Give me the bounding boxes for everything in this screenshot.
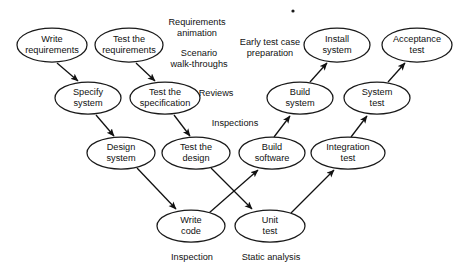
edge-write-requirements-to-specify-system (57, 63, 78, 81)
node-label-integration-test: Integration (326, 142, 369, 152)
process-diagram: WriterequirementsTest therequirementsIns… (0, 0, 466, 277)
edge-specify-system-to-design-system (96, 115, 114, 136)
node-label-build-system: Build (290, 87, 310, 97)
annotation-reviews: Reviews (199, 88, 234, 98)
annotation-label-static-analysis: Static analysis (242, 252, 301, 262)
annotation-label-inspections: Inspections (212, 118, 259, 128)
annotation-requirements-animation: Requirementsanimation (168, 17, 226, 39)
node-label-test-the-specification: Test the (149, 87, 181, 97)
node-unit-test[interactable]: Unittest (235, 210, 305, 242)
annotation-label-requirements-animation: Requirements (168, 17, 226, 27)
node-label-write-code: Write (180, 215, 201, 225)
node-label-write-requirements: requirements (25, 45, 79, 55)
node-test-the-design[interactable]: Test thedesign (162, 137, 230, 169)
artifact-specks-layer (291, 9, 294, 12)
annotation-inspections: Inspections (212, 118, 259, 128)
node-label-test-the-requirements: Test the (113, 34, 145, 44)
node-install-system[interactable]: Installsystem (304, 28, 370, 62)
annotation-scenario-walk-throughs: Scenariowalk-throughs (169, 48, 228, 70)
edge-test-design-to-unit-test (211, 168, 252, 209)
node-label-install-system: system (322, 45, 351, 55)
node-test-the-specification[interactable]: Test thespecification (130, 82, 200, 114)
annotation-static-analysis: Static analysis (242, 252, 301, 262)
node-label-design-system: Design (107, 142, 136, 152)
node-label-system-test: test (370, 98, 385, 108)
diagram-canvas: WriterequirementsTest therequirementsIns… (0, 0, 466, 277)
node-label-test-the-design: design (182, 153, 209, 163)
edge-test-specification-to-test-design (174, 115, 190, 136)
node-label-unit-test: test (263, 226, 278, 236)
annotation-label-requirements-animation: animation (177, 28, 217, 38)
edge-test-requirements-to-test-specification (136, 63, 155, 81)
edge-write-code-to-build-software (209, 170, 258, 213)
annotation-inspection: Inspection (171, 252, 213, 262)
edge-build-software-to-build-system (274, 116, 290, 137)
node-label-build-software: software (255, 153, 290, 163)
annotation-label-early-test-case-preparation: preparation (247, 48, 293, 58)
annotation-label-inspection: Inspection (171, 252, 213, 262)
edge-design-system-to-write-code (137, 168, 176, 209)
node-label-acceptance-test: test (410, 45, 425, 55)
node-build-software[interactable]: Buildsoftware (239, 137, 305, 169)
node-label-acceptance-test: Acceptance (393, 34, 441, 44)
node-design-system[interactable]: Designsystem (87, 137, 155, 169)
node-label-write-requirements: Write (41, 34, 62, 44)
edge-build-system-to-install-system (310, 63, 327, 82)
node-specify-system[interactable]: Specifysystem (55, 82, 121, 114)
annotation-label-scenario-walk-throughs: Scenario (181, 48, 217, 58)
node-label-write-code: code (181, 226, 201, 236)
node-label-test-the-specification: specification (140, 98, 191, 108)
node-integration-test[interactable]: Integrationtest (311, 137, 385, 169)
node-system-test[interactable]: Systemtest (344, 82, 410, 114)
edge-integration-test-to-system-test (351, 116, 367, 137)
annotation-label-scenario-walk-throughs: walk-throughs (169, 59, 228, 69)
annotation-early-test-case-preparation: Early test casepreparation (240, 37, 300, 59)
node-label-install-system: Install (325, 34, 349, 44)
artifact-scan-speck (291, 9, 294, 12)
node-acceptance-test[interactable]: Acceptancetest (382, 28, 452, 62)
node-label-design-system: system (106, 153, 135, 163)
annotation-label-early-test-case-preparation: Early test case (240, 37, 300, 47)
node-label-specify-system: Specify (73, 87, 104, 97)
node-label-system-test: System (362, 87, 393, 97)
node-label-test-the-requirements: requirements (102, 45, 156, 55)
edge-unit-test-to-integration-test (291, 170, 334, 213)
node-label-unit-test: Unit (262, 215, 279, 225)
node-write-code[interactable]: Writecode (157, 210, 225, 242)
node-build-system[interactable]: Buildsystem (267, 82, 333, 114)
edge-system-test-to-acceptance-test (388, 63, 405, 82)
node-label-build-system: system (285, 98, 314, 108)
node-label-test-the-design: Test the (180, 142, 212, 152)
node-label-specify-system: system (73, 98, 102, 108)
node-label-integration-test: test (341, 153, 356, 163)
annotation-label-reviews: Reviews (199, 88, 234, 98)
node-test-the-requirements[interactable]: Test therequirements (95, 28, 163, 62)
nodes-layer: WriterequirementsTest therequirementsIns… (17, 28, 452, 242)
node-label-build-software: Build (262, 142, 282, 152)
node-write-requirements[interactable]: Writerequirements (17, 28, 87, 62)
